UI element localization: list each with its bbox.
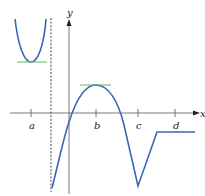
x-axis: x [10,108,205,119]
function-graph: x y a b c d [0,0,205,196]
tick-label-b: b [94,120,100,131]
tick-label-a: a [29,120,35,131]
tick-label-d: d [173,120,179,131]
y-axis-label: y [66,7,73,18]
x-axis-label: x [200,108,205,119]
y-axis-arrow-icon [67,19,72,26]
main-curve [52,85,195,188]
y-axis: y [66,7,73,194]
tick-label-c: c [136,120,142,131]
left-branch-curve [15,19,46,62]
x-axis-arrow-icon [193,111,200,116]
